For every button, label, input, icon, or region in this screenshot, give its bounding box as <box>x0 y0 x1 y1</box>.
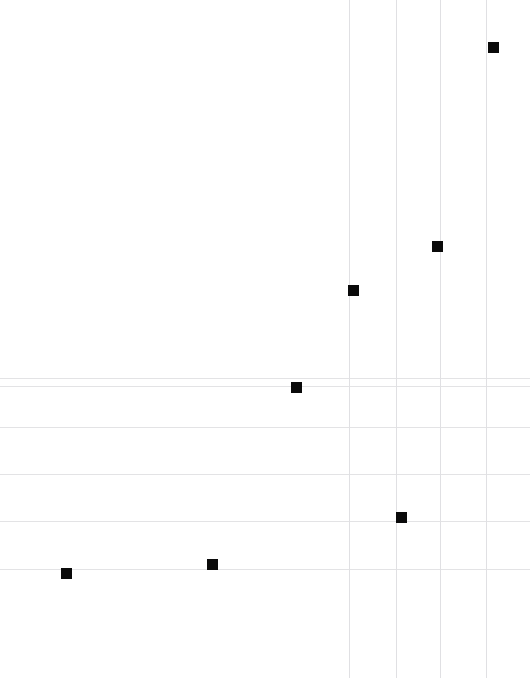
data-points-layer <box>0 0 530 678</box>
data-point-marker <box>432 241 443 252</box>
data-point-marker <box>61 568 72 579</box>
chart-canvas <box>0 0 530 678</box>
data-point-marker <box>207 559 218 570</box>
data-point-marker <box>291 382 302 393</box>
data-point-marker <box>488 42 499 53</box>
data-point-marker <box>348 285 359 296</box>
data-point-marker <box>396 512 407 523</box>
